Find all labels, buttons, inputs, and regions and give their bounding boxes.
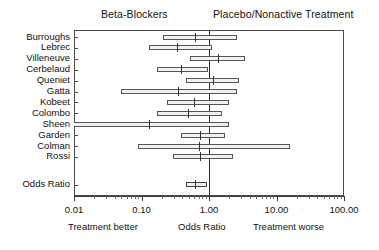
study-label-burroughs: Burroughs <box>26 32 70 42</box>
x-tick-minor <box>202 196 203 199</box>
x-tick-minor <box>94 196 95 199</box>
point-estimate-sheen <box>149 120 150 129</box>
point-estimate-rossi <box>200 152 201 161</box>
x-tick-minor <box>115 196 116 199</box>
footnote-odds-ratio: Odds Ratio <box>178 221 226 232</box>
study-label-garden: Garden <box>38 130 70 140</box>
row-tick <box>74 37 78 38</box>
row-tick <box>74 146 78 147</box>
point-estimate-villeneuve <box>218 54 219 63</box>
x-tick-minor <box>273 196 274 199</box>
x-tick-minor <box>229 196 230 199</box>
point-estimate-cerbelaud <box>181 65 182 74</box>
study-label-queniet: Queniet <box>37 75 70 85</box>
point-estimate-colombo <box>188 109 189 118</box>
group-header-left: Beta-Blockers <box>101 8 168 20</box>
x-tick-minor <box>309 196 310 199</box>
confidence-interval-kobeet <box>167 100 229 105</box>
x-tick-minor <box>121 196 122 199</box>
x-tick-minor <box>317 196 318 199</box>
confidence-interval-colombo <box>157 111 222 116</box>
x-tick-major <box>74 196 75 201</box>
point-estimate-gatta <box>178 87 179 96</box>
point-estimate-kobeet <box>194 98 195 107</box>
study-label-column: BurroughsLebrecVilleneuveCerbelaudQuenie… <box>0 0 70 250</box>
study-label-sheen: Sheen <box>43 119 70 129</box>
x-tick-minor <box>329 196 330 199</box>
x-tick-minor <box>324 196 325 199</box>
confidence-interval-colman <box>138 144 290 149</box>
study-label-cerbelaud: Cerbelaud <box>26 64 70 74</box>
x-tick-major <box>344 196 345 201</box>
row-tick <box>74 81 78 82</box>
x-tick-label: 100.00 <box>329 204 358 215</box>
x-tick-label: 0.10 <box>132 204 151 215</box>
confidence-interval-odds-ratio <box>186 182 208 187</box>
x-tick-minor <box>194 196 195 199</box>
x-tick-minor <box>241 196 242 199</box>
study-label-colman: Colman <box>37 141 70 151</box>
study-label-lebrec: Lebrec <box>41 42 70 52</box>
confidence-interval-sheen <box>74 122 229 127</box>
x-tick-minor <box>174 196 175 199</box>
point-estimate-lebrec <box>177 43 178 52</box>
confidence-interval-lebrec <box>149 45 212 50</box>
x-tick-minor <box>106 196 107 199</box>
x-tick-minor <box>135 196 136 199</box>
x-tick-minor <box>337 196 338 199</box>
row-tick <box>74 185 78 186</box>
x-tick-minor <box>206 196 207 199</box>
row-tick <box>74 70 78 71</box>
x-tick-label: 0.01 <box>65 204 84 215</box>
point-estimate-queniet <box>213 76 214 85</box>
x-tick-minor <box>256 196 257 199</box>
study-label-villeneuve: Villeneuve <box>26 53 70 63</box>
row-tick <box>74 92 78 93</box>
x-tick-minor <box>138 196 139 199</box>
x-tick-minor <box>189 196 190 199</box>
confidence-interval-garden <box>181 133 226 138</box>
x-tick-major <box>209 196 210 201</box>
study-label-odds-ratio: Odds Ratio <box>22 179 70 189</box>
footnote-treatment-worse: Treatment worse <box>253 221 324 232</box>
x-tick-minor <box>250 196 251 199</box>
row-tick <box>74 48 78 49</box>
study-label-kobeet: Kobeet <box>40 97 70 107</box>
confidence-interval-rossi <box>173 154 234 159</box>
x-tick-minor <box>131 196 132 199</box>
x-tick-minor <box>297 196 298 199</box>
footnote-treatment-better: Treatment better <box>68 221 138 232</box>
x-tick-minor <box>334 196 335 199</box>
x-tick-minor <box>127 196 128 199</box>
x-tick-minor <box>162 196 163 199</box>
row-tick <box>74 59 78 60</box>
row-tick <box>74 135 78 136</box>
point-estimate-odds-ratio <box>195 180 196 189</box>
confidence-interval-burroughs <box>163 35 237 40</box>
point-estimate-colman <box>199 142 200 151</box>
point-estimate-burroughs <box>195 33 196 42</box>
row-tick <box>74 113 78 114</box>
x-tick-minor <box>341 196 342 199</box>
x-tick-label: 1.00 <box>200 204 219 215</box>
group-header-right: Placebo/Nonactive Treatment <box>213 8 353 20</box>
x-tick-major <box>277 196 278 201</box>
x-tick-minor <box>262 196 263 199</box>
row-tick <box>74 157 78 158</box>
study-label-gatta: Gatta <box>47 86 70 96</box>
x-tick-minor <box>266 196 267 199</box>
study-label-colombo: Colombo <box>32 108 70 118</box>
row-tick <box>74 102 78 103</box>
x-tick-minor <box>182 196 183 199</box>
confidence-interval-cerbelaud <box>157 67 208 72</box>
x-tick-minor <box>199 196 200 199</box>
study-label-rossi: Rossi <box>46 151 70 161</box>
x-tick-major <box>142 196 143 201</box>
x-tick-label: 10.00 <box>265 204 289 215</box>
x-tick-minor <box>270 196 271 199</box>
point-estimate-garden <box>200 131 201 140</box>
forest-plot-figure: Beta-Blockers Placebo/Nonactive Treatmen… <box>0 0 379 250</box>
